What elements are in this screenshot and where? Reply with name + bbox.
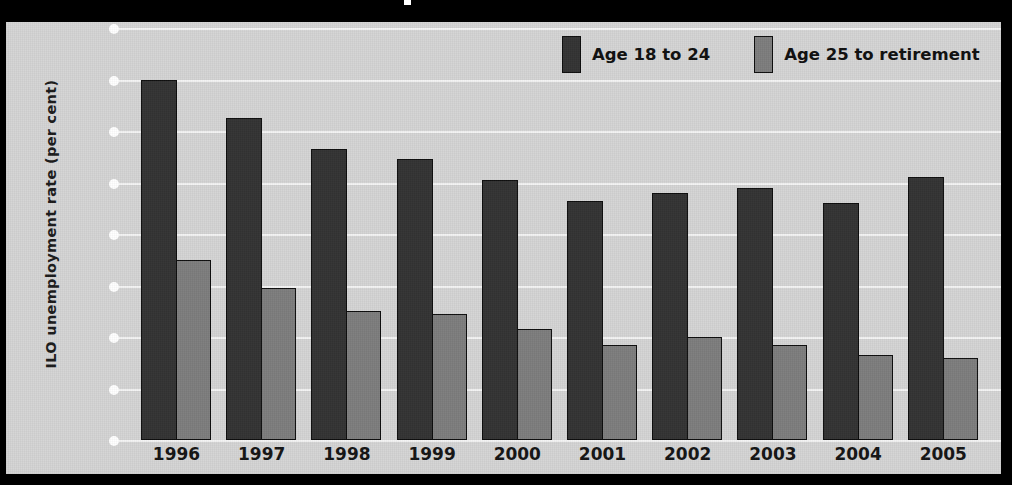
x-tick-label-1996: 1996 xyxy=(141,444,213,464)
bar-2002-series-2 xyxy=(687,337,722,440)
bar-2002-series-1 xyxy=(652,193,688,440)
bar-group xyxy=(397,28,468,440)
bar-2005-series-1 xyxy=(908,177,944,440)
bar-1996-series-1 xyxy=(141,80,177,441)
legend-item-2: Age 25 to retirement xyxy=(754,36,979,73)
x-tick-label-1997: 1997 xyxy=(226,444,298,464)
legend-label-2: Age 25 to retirement xyxy=(784,45,979,64)
bar-1999-series-1 xyxy=(397,159,433,440)
x-axis-tick-labels: 1996199719981999200020012002200320042005 xyxy=(114,444,1002,468)
plot-area xyxy=(114,28,1002,440)
x-tick-label-2005: 2005 xyxy=(907,444,979,464)
chart-panel: ILO unemployment rate (per cent) 1996199… xyxy=(6,22,1006,474)
x-tick-label-2000: 2000 xyxy=(481,444,553,464)
bar-1998-series-1 xyxy=(311,149,347,440)
bar-group xyxy=(908,28,979,440)
bar-series-container xyxy=(114,28,1002,440)
bar-group xyxy=(823,28,894,440)
legend-swatch-gray xyxy=(754,36,773,73)
x-tick-label-2003: 2003 xyxy=(737,444,809,464)
source-label: Source xyxy=(72,472,128,474)
chart-figure: ILO unemployment rate (per cent) 1996199… xyxy=(0,0,1012,485)
x-tick-label-2001: 2001 xyxy=(567,444,639,464)
bar-2001-series-1 xyxy=(567,201,603,440)
bar-2000-series-2 xyxy=(517,329,552,440)
bar-1996-series-2 xyxy=(176,260,211,440)
title-band xyxy=(0,0,1012,22)
bar-2003-series-2 xyxy=(772,345,807,440)
bar-2001-series-2 xyxy=(602,345,637,440)
bar-group xyxy=(226,28,297,440)
x-tick-label-1999: 1999 xyxy=(396,444,468,464)
bar-group xyxy=(737,28,808,440)
gridline xyxy=(114,440,1002,442)
bar-group xyxy=(567,28,638,440)
y-axis-title: ILO unemployment rate (per cent) xyxy=(36,26,66,422)
bar-1998-series-2 xyxy=(346,311,381,440)
x-tick-label-1998: 1998 xyxy=(311,444,383,464)
bar-group xyxy=(482,28,553,440)
bar-2004-series-2 xyxy=(858,355,893,440)
legend-item-1: Age 18 to 24 xyxy=(562,36,710,73)
x-tick-label-2002: 2002 xyxy=(652,444,724,464)
bar-2003-series-1 xyxy=(737,188,773,440)
bar-group xyxy=(311,28,382,440)
bar-1997-series-2 xyxy=(261,288,296,440)
bar-2000-series-1 xyxy=(482,180,518,440)
title-glyph-fragment xyxy=(404,0,411,5)
x-tick-label-2004: 2004 xyxy=(822,444,894,464)
bar-group xyxy=(141,28,212,440)
bar-group xyxy=(652,28,723,440)
legend-swatch-dark xyxy=(562,36,581,73)
source-note: Source: Spring Quarters, Labour Force Su… xyxy=(72,472,452,474)
bar-1999-series-2 xyxy=(432,314,467,440)
source-text: : Spring Quarters, Labour Force Survey, … xyxy=(128,472,451,474)
legend-label-1: Age 18 to 24 xyxy=(592,45,710,64)
chart-legend: Age 18 to 24Age 25 to retirement xyxy=(562,32,980,76)
bar-1997-series-1 xyxy=(226,118,262,440)
bar-2005-series-2 xyxy=(943,358,978,440)
bar-2004-series-1 xyxy=(823,203,859,440)
